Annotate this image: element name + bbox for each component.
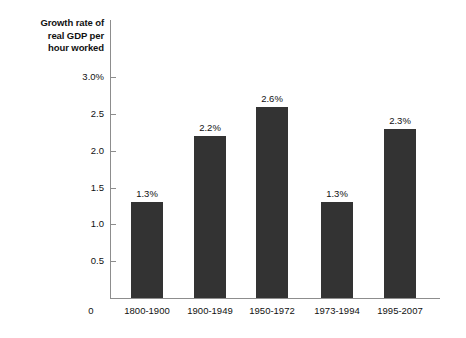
bar-value-label: 1.3% bbox=[307, 188, 367, 199]
x-axis-category-label: 1995-2007 bbox=[357, 305, 443, 316]
bar-value-label: 2.2% bbox=[180, 122, 240, 133]
y-tick-label-wrap: 0.5 bbox=[40, 256, 104, 266]
bar bbox=[384, 129, 416, 298]
bar-value-label: 1.3% bbox=[117, 188, 177, 199]
y-tick-label: 1.0 bbox=[40, 219, 104, 229]
y-tick-label: 2.5 bbox=[40, 109, 104, 119]
y-axis-origin-label: 0 bbox=[84, 305, 98, 316]
y-tick-mark bbox=[110, 114, 116, 115]
y-tick-label: 3.0% bbox=[40, 72, 104, 82]
y-tick-label-wrap: 1.0 bbox=[40, 219, 104, 229]
y-tick-label-wrap: 2.0 bbox=[40, 146, 104, 156]
y-tick-mark bbox=[110, 151, 116, 152]
y-tick-label: 0.5 bbox=[40, 256, 104, 266]
bar bbox=[131, 202, 163, 298]
bar-chart: Growth rate of real GDP per hour worked … bbox=[0, 0, 466, 338]
bar bbox=[194, 136, 226, 298]
y-tick-label-wrap: 2.5 bbox=[40, 109, 104, 119]
bar-value-label: 2.3% bbox=[370, 115, 430, 126]
bar bbox=[256, 107, 288, 298]
y-tick-label-wrap: 1.5 bbox=[40, 183, 104, 193]
y-tick-mark bbox=[110, 188, 116, 189]
bar bbox=[321, 202, 353, 298]
bar-value-label: 2.6% bbox=[242, 93, 302, 104]
y-axis-line bbox=[110, 20, 111, 299]
y-tick-mark bbox=[110, 77, 116, 78]
y-tick-label: 2.0 bbox=[40, 146, 104, 156]
y-tick-mark bbox=[110, 261, 116, 262]
y-tick-label: 1.5 bbox=[40, 183, 104, 193]
y-tick-mark bbox=[110, 224, 116, 225]
y-tick-label-wrap: 3.0% bbox=[40, 72, 104, 82]
x-axis-line bbox=[110, 298, 440, 299]
y-axis-title: Growth rate of real GDP per hour worked bbox=[14, 17, 104, 55]
